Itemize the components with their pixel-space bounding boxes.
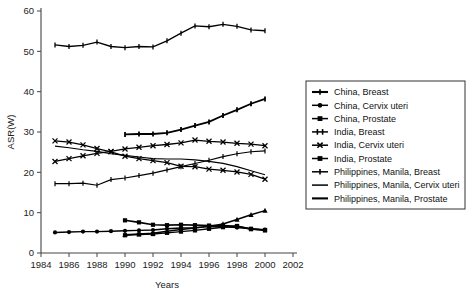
series-9 (53, 138, 268, 164)
y-tick-label: 20 (23, 167, 34, 178)
series-3 (125, 96, 265, 136)
y-tick-label: 0 (29, 247, 34, 258)
marker-square (235, 224, 239, 228)
marker-square (249, 227, 253, 231)
y-tick-label: 50 (23, 46, 34, 57)
legend-label: India, Cervix uteri (334, 140, 404, 150)
x-tick-label: 1986 (58, 259, 79, 270)
marker-square (151, 223, 155, 227)
legend-marker-square (318, 116, 323, 121)
marker-circle (95, 230, 99, 234)
series-0 (55, 148, 265, 187)
marker-circle (81, 230, 85, 234)
x-tick-label: 1994 (170, 259, 191, 270)
legend-label: Philippines, Manila, Cervix uteri (334, 180, 460, 190)
x-tick-label: 1988 (86, 259, 107, 270)
x-tick-label: 1990 (114, 259, 135, 270)
x-tick-label: 1998 (226, 259, 247, 270)
x-tick-label: 2000 (254, 259, 275, 270)
chart-canvas: 0102030405060198419861988199019921994199… (0, 0, 467, 296)
legend-label: China, Prostate (334, 114, 396, 124)
marker-circle (67, 230, 71, 234)
chart-figure: 0102030405060198419861988199019921994199… (0, 0, 467, 296)
legend-label: China, Cervix uteri (334, 101, 408, 111)
series-path (55, 141, 265, 179)
marker-square (263, 228, 267, 232)
legend-label: China, Breast (334, 87, 389, 97)
marker-triangle (262, 208, 267, 213)
x-tick-label: 2002 (282, 259, 303, 270)
legend-entry-7[interactable]: Philippines, Manila, Cervix uteri (312, 180, 460, 190)
y-tick-label: 10 (23, 207, 34, 218)
y-axis-title: ASR(W) (5, 115, 16, 150)
legend-label: India, Prostate (334, 154, 392, 164)
series-path (55, 146, 265, 175)
x-axis-title: Years (155, 279, 179, 290)
marker-circle (53, 230, 57, 234)
series-7 (55, 146, 265, 175)
marker-circle (109, 229, 113, 233)
x-tick-label: 1992 (142, 259, 163, 270)
marker-square (123, 218, 127, 222)
series-path (125, 99, 265, 134)
legend-label: Philippines, Manila, Prostate (334, 194, 448, 204)
legend-marker-square (318, 156, 323, 161)
y-tick-label: 40 (23, 86, 34, 97)
series-layer (53, 22, 268, 238)
y-tick-label: 60 (23, 5, 34, 16)
series-6 (55, 22, 265, 50)
marker-square (165, 223, 169, 227)
series-path (55, 151, 265, 185)
x-tick-label: 1996 (198, 259, 219, 270)
y-tick-label: 30 (23, 126, 34, 137)
legend-label: India, Breast (334, 127, 385, 137)
legend-layer: China, BreastChina, Cervix uteriChina, P… (306, 81, 465, 209)
series-path (55, 24, 265, 47)
x-tick-label: 1984 (30, 259, 51, 270)
legend-marker-circle (318, 103, 323, 108)
legend-label: Philippines, Manila, Breast (334, 167, 441, 177)
marker-square (137, 220, 141, 224)
marker-square (179, 223, 183, 227)
